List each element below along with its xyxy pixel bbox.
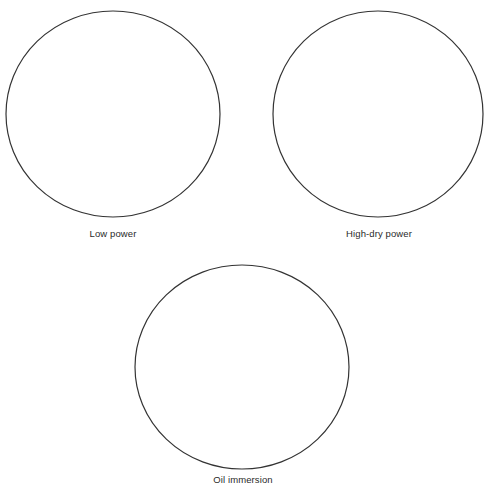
- oil-immersion-field-circle: [135, 265, 349, 469]
- fields-canvas: [0, 0, 487, 490]
- high-dry-power-field-circle: [273, 11, 483, 217]
- low-power-label: Low power: [90, 228, 137, 239]
- low-power-field-circle: [6, 11, 220, 217]
- oil-immersion-label: Oil immersion: [213, 474, 272, 485]
- high-dry-power-label: High-dry power: [346, 228, 412, 239]
